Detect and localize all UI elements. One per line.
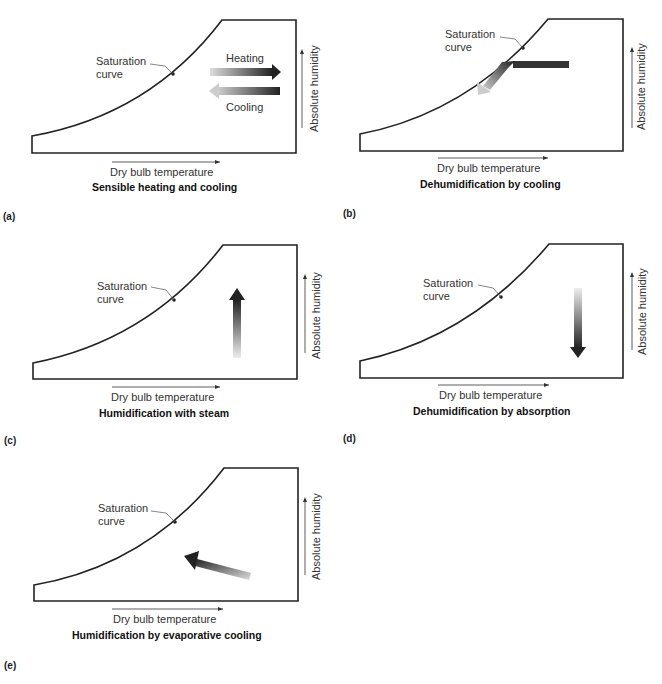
panel-caption: Humidification by evaporative cooling bbox=[72, 629, 262, 641]
panel-b: Saturationcurve Dry bulb temperature Deh… bbox=[330, 0, 661, 228]
psychrometric-chart-a bbox=[0, 0, 331, 228]
x-axis-label: Dry bulb temperature bbox=[110, 166, 213, 178]
psychrometric-chart-b bbox=[330, 0, 661, 228]
heating-label: Heating bbox=[226, 52, 264, 64]
y-axis-label: Absolute humidity bbox=[310, 272, 322, 359]
x-axis-label: Dry bulb temperature bbox=[437, 162, 540, 174]
x-axis-label: Dry bulb temperature bbox=[439, 389, 542, 401]
down-arrow-icon bbox=[574, 288, 582, 348]
up-arrow-icon bbox=[233, 300, 241, 358]
panel-caption: Dehumidification by absorption bbox=[413, 405, 571, 417]
cooling-arrow-icon bbox=[513, 61, 569, 68]
x-axis-label: Dry bulb temperature bbox=[113, 613, 216, 625]
saturation-label: Saturationcurve bbox=[97, 280, 147, 306]
psychrometric-chart-d bbox=[330, 225, 661, 453]
panel-c: Saturationcurve Dry bulb temperature Hum… bbox=[0, 225, 331, 453]
y-axis-label: Absolute humidity bbox=[636, 268, 648, 355]
panel-d: Saturationcurve Dry bulb temperature Deh… bbox=[330, 225, 661, 453]
saturation-label: Saturationcurve bbox=[445, 28, 495, 54]
panel-a: Saturationcurve Heating Cooling Dry bulb… bbox=[0, 0, 331, 228]
panel-tag: (c) bbox=[4, 435, 16, 446]
y-axis-label: Absolute humidity bbox=[308, 45, 320, 132]
y-axis-label: Absolute humidity bbox=[635, 43, 647, 130]
saturation-label: Saturationcurve bbox=[423, 277, 473, 303]
cooling-label: Cooling bbox=[226, 101, 263, 113]
panel-tag: (e) bbox=[4, 660, 16, 671]
panel-e: Saturationcurve Dry bulb temperature Hum… bbox=[0, 455, 331, 683]
panel-caption: Sensible heating and cooling bbox=[92, 181, 237, 193]
saturation-label: Saturationcurve bbox=[98, 502, 148, 528]
cooling-arrow-icon bbox=[218, 87, 280, 95]
panel-tag: (b) bbox=[343, 208, 356, 219]
y-axis-label: Absolute humidity bbox=[310, 493, 322, 580]
panel-tag: (a) bbox=[3, 211, 15, 222]
saturation-label: Saturationcurve bbox=[96, 55, 146, 81]
panel-tag: (d) bbox=[343, 433, 356, 444]
x-axis-label: Dry bulb temperature bbox=[111, 391, 214, 403]
psychrometric-chart-e bbox=[0, 455, 331, 683]
panel-caption: Humidification with steam bbox=[99, 407, 229, 419]
heating-arrow-icon bbox=[210, 68, 273, 76]
panel-caption: Dehumidification by cooling bbox=[420, 178, 561, 190]
